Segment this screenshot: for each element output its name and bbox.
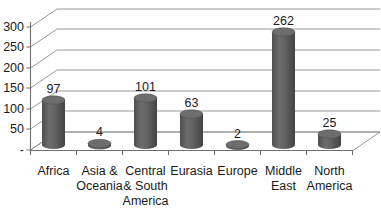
data-label-middle-east: 262	[273, 14, 294, 28]
bar-north-america[interactable]	[318, 130, 341, 149]
y-tick-label: 50	[10, 122, 24, 136]
data-label-europe: 2	[234, 127, 241, 141]
bar-europe[interactable]	[226, 141, 249, 151]
x-tick-label-africa: Africa	[38, 164, 70, 178]
x-tick-label-central-south-america-line1: Central	[125, 164, 165, 178]
bar-africa[interactable]	[42, 96, 65, 149]
x-tick-label-central-south-america-line2: & South	[123, 179, 168, 193]
data-label-africa: 97	[47, 82, 61, 96]
x-tick-label-middle-east-line2: East	[271, 179, 297, 193]
x-tick-label-middle-east-line1: Middle	[265, 164, 302, 178]
y-tick-label: 100	[3, 102, 24, 116]
x-tick-label-central-south-america-line3: America	[123, 194, 169, 208]
bar-chart-container: 300 250 200 150 100 50 -	[0, 0, 381, 212]
bar-asia-oceania[interactable]	[88, 139, 111, 149]
bar-chart-svg: 300 250 200 150 100 50 -	[0, 0, 381, 212]
bar-eurasia[interactable]	[180, 110, 203, 149]
x-tick-label-north-america-line1: North	[314, 164, 345, 178]
x-tick-label-europe: Europe	[217, 164, 257, 178]
y-tick-label: 150	[3, 81, 24, 95]
data-label-eurasia: 63	[185, 96, 199, 110]
y-tick-label: 200	[3, 61, 24, 75]
bar-central-south-america[interactable]	[134, 94, 157, 149]
x-tick-label-asia-oceania-line2: Oceania	[76, 179, 123, 193]
bar-middle-east[interactable]	[272, 28, 295, 149]
x-tick-label-eurasia: Eurasia	[170, 164, 212, 178]
x-tick-label-asia-oceania-line1: Asia &	[81, 164, 118, 178]
y-tick-label: 300	[3, 20, 24, 34]
data-label-asia-oceania: 4	[96, 125, 103, 139]
y-tick-label: -	[20, 143, 24, 157]
x-tick-label-north-america-line2: America	[307, 179, 353, 193]
y-tick-label: 250	[3, 40, 24, 54]
data-label-north-america: 25	[323, 116, 337, 130]
data-label-central-south-america: 101	[135, 80, 156, 94]
